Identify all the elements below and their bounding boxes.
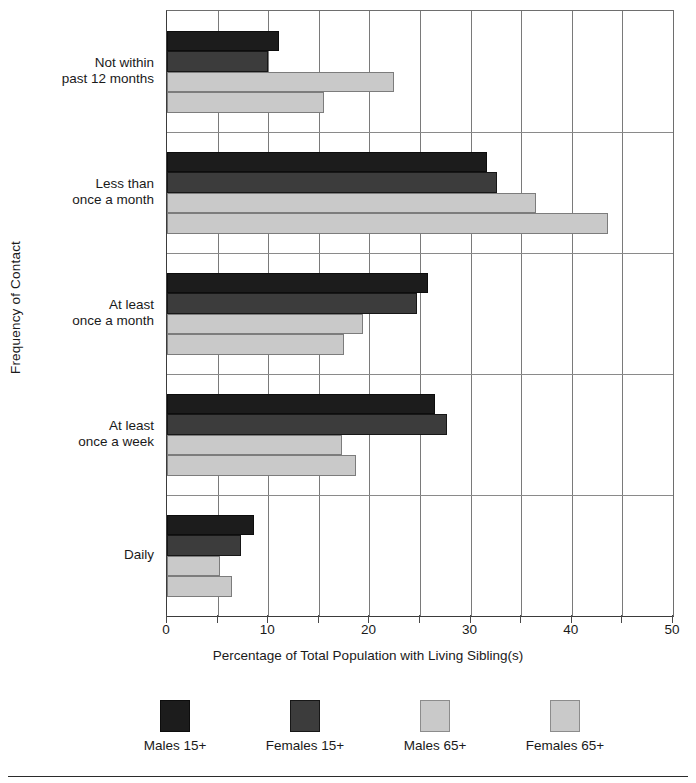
x-axis-tick-label: 50 bbox=[652, 622, 692, 637]
bar bbox=[167, 414, 447, 435]
legend-item: Males 65+ bbox=[375, 700, 495, 753]
legend-color-swatch bbox=[290, 700, 320, 732]
bar bbox=[167, 334, 344, 355]
legend-item: Females 15+ bbox=[245, 700, 365, 753]
x-axis-tick-mark bbox=[419, 615, 420, 623]
footer-rule bbox=[8, 776, 688, 777]
bar bbox=[167, 92, 324, 113]
bar bbox=[167, 273, 428, 294]
legend-color-swatch bbox=[420, 700, 450, 732]
legend-item: Males 15+ bbox=[115, 700, 235, 753]
legend-item: Females 65+ bbox=[505, 700, 625, 753]
bar bbox=[167, 51, 268, 72]
bar bbox=[167, 435, 342, 456]
x-axis-tick-label: 10 bbox=[247, 622, 287, 637]
bar bbox=[167, 293, 417, 314]
y-axis-title: Frequency of Contact bbox=[4, 0, 28, 615]
legend-label: Males 15+ bbox=[115, 738, 235, 753]
x-axis-tick-label: 0 bbox=[146, 622, 186, 637]
bar bbox=[167, 172, 497, 193]
bar bbox=[167, 535, 241, 556]
gridline-vertical bbox=[471, 11, 472, 616]
bar bbox=[167, 515, 254, 536]
x-axis-tick-mark bbox=[520, 615, 521, 623]
y-axis-category-label: Not within past 12 months bbox=[62, 55, 154, 87]
legend-label: Females 15+ bbox=[245, 738, 365, 753]
chart-legend: Males 15+Females 15+Males 65+Females 65+ bbox=[0, 700, 696, 755]
gridline-vertical bbox=[572, 11, 573, 616]
y-axis-category-label: Daily bbox=[124, 547, 154, 563]
gridline-vertical bbox=[521, 11, 522, 616]
y-axis-category-labels: Not within past 12 monthsLess than once … bbox=[30, 10, 160, 615]
bar bbox=[167, 455, 356, 476]
legend-color-swatch bbox=[550, 700, 580, 732]
y-axis-category-label: At least once a week bbox=[78, 418, 154, 450]
bar bbox=[167, 314, 363, 335]
legend-label: Females 65+ bbox=[505, 738, 625, 753]
gridline-horizontal bbox=[167, 495, 673, 496]
gridline-vertical bbox=[369, 11, 370, 616]
x-axis-tick-label: 40 bbox=[551, 622, 591, 637]
bar bbox=[167, 152, 487, 173]
gridline-horizontal bbox=[167, 132, 673, 133]
y-axis-category-label: Less than once a month bbox=[72, 176, 154, 208]
x-axis-title: Percentage of Total Population with Livi… bbox=[0, 648, 696, 663]
y-axis-category-label: At least once a month bbox=[72, 297, 154, 329]
x-axis-tick-label: 30 bbox=[450, 622, 490, 637]
bar bbox=[167, 576, 232, 597]
bar-chart-figure: Frequency of Contact Not within past 12 … bbox=[0, 0, 696, 783]
bar bbox=[167, 394, 435, 415]
bar bbox=[167, 213, 608, 234]
bar bbox=[167, 556, 220, 577]
x-axis-tick-mark bbox=[318, 615, 319, 623]
x-axis-tick-mark bbox=[621, 615, 622, 623]
x-axis-tick-label: 20 bbox=[348, 622, 388, 637]
gridline-horizontal bbox=[167, 253, 673, 254]
bar bbox=[167, 193, 536, 214]
legend-color-swatch bbox=[160, 700, 190, 732]
gridline-horizontal bbox=[167, 374, 673, 375]
bar bbox=[167, 31, 279, 52]
x-axis-tick-mark bbox=[217, 615, 218, 623]
y-axis-title-text: Frequency of Contact bbox=[9, 241, 24, 374]
legend-label: Males 65+ bbox=[375, 738, 495, 753]
gridline-vertical bbox=[622, 11, 623, 616]
bar bbox=[167, 72, 394, 93]
plot-area bbox=[166, 10, 674, 617]
gridline-vertical bbox=[420, 11, 421, 616]
